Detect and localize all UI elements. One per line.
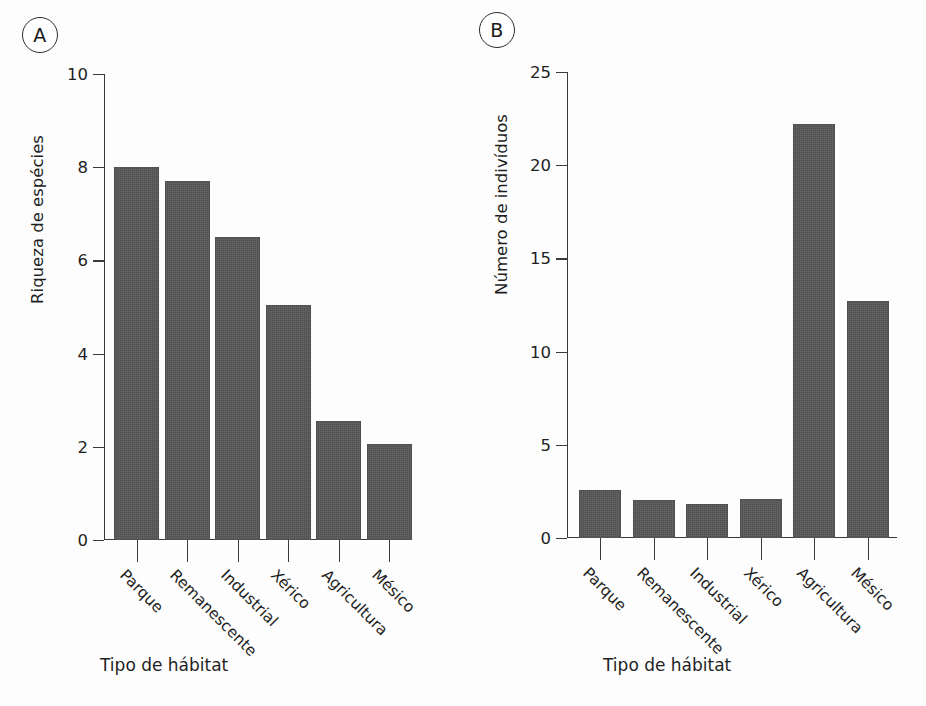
- y-tick-label: 0: [541, 529, 552, 548]
- y-tick-mark: [556, 72, 567, 73]
- y-tick-mark: [556, 352, 567, 353]
- y-tick-label: 20: [530, 156, 551, 175]
- x-tick-mark: [389, 540, 390, 562]
- bar: [633, 500, 675, 538]
- x-tick-mark: [600, 538, 601, 560]
- y-tick-label: 2: [78, 437, 89, 456]
- x-tick-label: Parque: [579, 564, 630, 615]
- y-tick-mark: [93, 447, 104, 448]
- y-tick-mark: [93, 167, 104, 168]
- bar: [740, 499, 782, 538]
- x-tick-mark: [288, 540, 289, 562]
- x-tick-mark: [868, 538, 869, 560]
- y-tick-label: 15: [530, 249, 551, 268]
- panel-a-y-axis-line: [104, 74, 105, 540]
- bar: [316, 421, 361, 540]
- y-tick-label: 5: [541, 435, 552, 454]
- panel-b-y-axis-title: Número de indivíduos: [492, 95, 511, 315]
- bar: [686, 504, 728, 538]
- y-tick-label: 25: [530, 63, 551, 82]
- x-tick-label: Remanescente: [166, 566, 260, 660]
- x-tick-mark: [814, 538, 815, 560]
- figure-canvas: A Riqueza de espécies 0246810 ParqueRema…: [0, 0, 926, 706]
- y-tick-mark: [93, 354, 104, 355]
- y-tick-label: 10: [67, 65, 88, 84]
- x-tick-mark: [654, 538, 655, 560]
- y-tick-mark: [556, 538, 567, 539]
- panel-a-x-axis-title: Tipo de hábitat: [100, 655, 228, 675]
- y-tick-mark: [556, 165, 567, 166]
- y-tick-label: 0: [78, 531, 89, 550]
- x-tick-label: Xérico: [740, 564, 787, 611]
- bar: [793, 124, 835, 538]
- y-tick-mark: [556, 445, 567, 446]
- bar: [215, 237, 260, 540]
- x-tick-mark: [339, 540, 340, 562]
- x-tick-label: Parque: [116, 566, 167, 617]
- y-tick-label: 8: [78, 158, 89, 177]
- panel-a: A Riqueza de espécies 0246810 ParqueRema…: [0, 0, 463, 706]
- bar: [266, 305, 311, 540]
- bar: [114, 167, 159, 540]
- x-tick-mark: [238, 540, 239, 562]
- panel-label-a: A: [22, 17, 58, 53]
- y-tick-mark: [556, 258, 567, 259]
- x-tick-mark: [761, 538, 762, 560]
- panel-a-plot-area: 0246810 ParqueRemanescenteIndustrialXéri…: [104, 74, 414, 540]
- x-tick-mark: [707, 538, 708, 560]
- y-tick-mark: [93, 74, 104, 75]
- panel-b-plot-area: 0510152025 ParqueRemanescenteIndustrialX…: [567, 72, 897, 538]
- panel-a-y-axis-title: Riqueza de espécies: [28, 120, 47, 320]
- bar: [847, 301, 889, 538]
- bar: [367, 444, 412, 540]
- panel-b: B Número de indivíduos 0510152025 Parque…: [463, 0, 926, 706]
- y-tick-label: 6: [78, 251, 89, 270]
- y-tick-mark: [93, 540, 104, 541]
- x-tick-label: Xérico: [267, 566, 314, 613]
- x-tick-label: Mésico: [847, 564, 897, 614]
- y-tick-label: 4: [78, 344, 89, 363]
- x-tick-label: Mésico: [368, 566, 418, 616]
- y-tick-mark: [93, 260, 104, 261]
- panel-label-b: B: [479, 12, 515, 48]
- x-tick-mark: [187, 540, 188, 562]
- bar: [165, 181, 210, 540]
- x-tick-mark: [137, 540, 138, 562]
- y-tick-label: 10: [530, 342, 551, 361]
- panel-b-y-axis-line: [567, 72, 568, 538]
- bar: [579, 490, 621, 538]
- panel-b-x-axis-title: Tipo de hábitat: [603, 655, 731, 675]
